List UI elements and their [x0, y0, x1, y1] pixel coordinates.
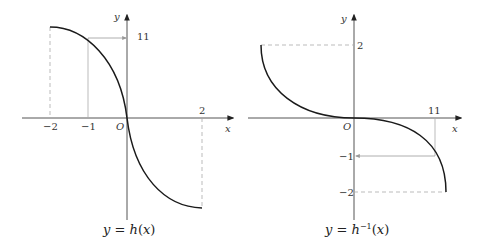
- caption-right: y = h−1(x): [324, 222, 389, 237]
- y-axis-label: y: [340, 13, 347, 24]
- tick-neg2: −2: [43, 121, 58, 132]
- origin-label: O: [116, 121, 124, 132]
- caption-left: y = h(x): [102, 222, 155, 237]
- y-axis-label: y: [113, 11, 120, 22]
- tick-2: 2: [357, 40, 363, 51]
- x-axis-label: x: [452, 123, 458, 134]
- right-graph: y x O 11 2 −1 −2 y = h−1(x): [248, 13, 461, 237]
- origin-label: O: [343, 121, 351, 132]
- tick-neg2: −2: [339, 187, 354, 198]
- marker-11: 11: [428, 105, 441, 116]
- tick-neg1: −1: [81, 121, 96, 132]
- tick-neg1: −1: [339, 151, 354, 162]
- tick-2: 2: [199, 105, 205, 116]
- marker-11: 11: [137, 31, 150, 42]
- left-graph: y x O −2 −1 2 11 y = h(x): [22, 11, 233, 237]
- x-axis-label: x: [225, 123, 231, 134]
